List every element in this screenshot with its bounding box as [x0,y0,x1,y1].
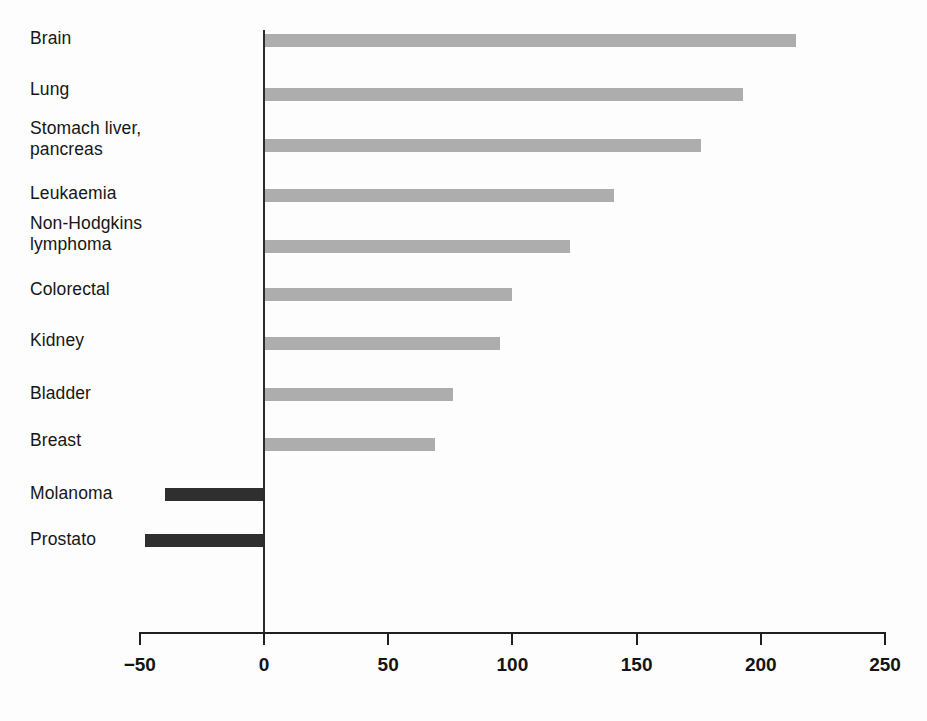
x-tick-label-0: 0 [259,654,270,676]
x-tick-250 [884,632,886,645]
bar-non-hodgkins-lymphoma [264,240,570,253]
zero-reference-line [263,30,265,632]
bar-stomach-liver-pancreas [264,139,701,152]
x-tick-50 [387,632,389,645]
x-tick-label-50: 50 [378,654,399,676]
x-tick-label-neg50: −50 [124,654,156,676]
bar-molanoma [165,488,264,501]
bar-brain [264,34,796,47]
x-tick-label-100: 100 [497,654,529,676]
bar-chart: BrainLungStomach liver, pancreasLeukaemi… [0,0,927,721]
x-tick-label-200: 200 [745,654,777,676]
bar-lung [264,88,743,101]
bar-breast [264,438,435,451]
plot-area [0,0,927,640]
x-tick-100 [511,632,513,645]
bar-colorectal [264,288,512,301]
x-tick-label-250: 250 [869,654,901,676]
x-tick-neg50 [139,632,141,645]
x-tick-label-150: 150 [621,654,653,676]
x-tick-0 [263,632,265,645]
bar-bladder [264,388,453,401]
bar-kidney [264,337,500,350]
bar-leukaemia [264,189,614,202]
x-tick-200 [760,632,762,645]
bar-prostato [145,534,264,547]
x-tick-150 [636,632,638,645]
